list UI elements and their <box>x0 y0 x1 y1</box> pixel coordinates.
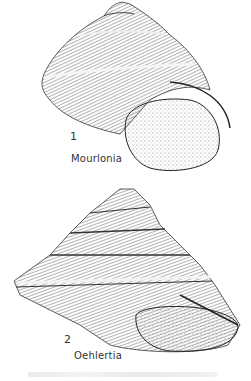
figure-2-genus-label: Oehlertia <box>74 350 122 361</box>
figure-1-genus-label: Mourlonia <box>71 153 122 164</box>
figure-2-number: 2 <box>64 333 71 346</box>
figure-1-number: 1 <box>70 130 77 143</box>
mourlonia-shell-illustration <box>0 0 251 185</box>
oehlertia-shell-illustration <box>0 185 251 370</box>
illegible-caption <box>28 372 218 377</box>
